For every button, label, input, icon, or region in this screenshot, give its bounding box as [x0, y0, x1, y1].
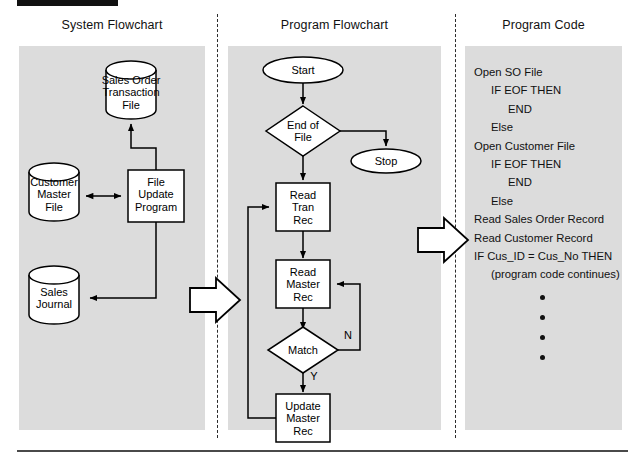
code-line: IF Cus_ID = Cus_No THEN — [474, 250, 612, 262]
code-line: Else — [491, 195, 513, 207]
code-line: Else — [491, 121, 513, 133]
code-line: END — [508, 103, 532, 115]
divider-2 — [455, 14, 456, 438]
column-title-program-code: Program Code — [465, 18, 622, 32]
code-line: Read Sales Order Record — [474, 213, 604, 225]
continuation-dot — [540, 335, 545, 340]
code-line: END — [508, 176, 532, 188]
top-black-bar — [17, 0, 118, 6]
code-line: Read Customer Record — [474, 232, 593, 244]
code-line: Open SO File — [474, 66, 542, 78]
continuation-dot — [540, 295, 545, 300]
panel-program-flowchart — [228, 46, 441, 430]
code-line: Open Customer File — [474, 140, 575, 152]
column-title-program-flowchart: Program Flowchart — [228, 18, 441, 32]
code-line: IF EOF THEN — [491, 84, 561, 96]
panel-system-flowchart — [19, 46, 205, 430]
code-line: IF EOF THEN — [491, 158, 561, 170]
code-line: (program code continues) — [491, 268, 620, 280]
divider-1 — [217, 14, 218, 438]
column-title-system-flowchart: System Flowchart — [19, 18, 205, 32]
bottom-rule — [17, 450, 628, 452]
continuation-dot — [540, 355, 545, 360]
continuation-dot — [540, 315, 545, 320]
